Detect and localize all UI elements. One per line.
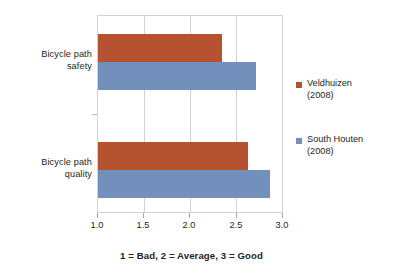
x-tick-label: 2.0 [171,220,207,230]
legend-label-line1: Veldhuizen [307,78,394,90]
legend-label: Veldhuizen (2008) [307,78,394,101]
x-tick-label: 3.0 [264,220,300,230]
x-tick-label: 1.0 [79,220,115,230]
plot-area [97,15,283,213]
category-label-line2: safety [6,61,92,73]
legend-swatch-icon [296,138,302,144]
chart-caption: 1 = Bad, 2 = Average, 3 = Good [0,250,383,261]
x-axis-tick-labels: 1.0 1.5 2.0 2.5 3.0 [97,220,283,234]
x-axis-tickmarks [97,213,283,219]
category-label-bicycle-path-safety: Bicycle path safety [6,49,92,72]
bar-safety-south-houten [98,62,256,90]
legend-label-line1: South Houten [307,134,394,146]
x-tickmark [189,213,190,218]
x-tick-label: 2.5 [218,220,254,230]
category-label-bicycle-path-quality: Bicycle path quality [6,157,92,180]
category-label-line1: Bicycle path [6,157,92,169]
category-label-line1: Bicycle path [6,49,92,61]
legend-swatch-icon [296,82,302,88]
bar-quality-south-houten [98,170,270,198]
y-axis-minor-tick [92,114,97,115]
x-tickmark [97,213,98,218]
x-tickmark [236,213,237,218]
legend-entry-veldhuizen: Veldhuizen (2008) [294,78,394,101]
bar-quality-veldhuizen [98,142,248,170]
x-tick-label: 1.5 [125,220,161,230]
legend-label-line2: (2008) [307,90,394,102]
bar-chart-figure: Bicycle path safety Bicycle path quality… [0,0,397,275]
category-label-line2: quality [6,169,92,181]
x-tickmark [282,213,283,218]
bar-safety-veldhuizen [98,34,222,62]
x-tickmark [143,213,144,218]
legend-label-line2: (2008) [307,146,394,158]
legend-label: South Houten (2008) [307,134,394,157]
legend-entry-south-houten: South Houten (2008) [294,134,394,157]
